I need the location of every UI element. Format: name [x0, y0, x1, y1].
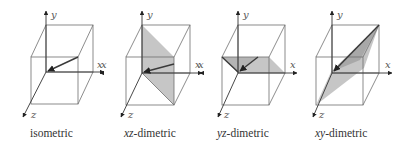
- caption-yz-dimetric: yz-dimetric: [216, 127, 269, 140]
- caption-xz-dimetric: xz-dimetric: [123, 127, 176, 139]
- z-label: z: [30, 109, 37, 120]
- z-label: z: [318, 109, 325, 120]
- z-label: z: [127, 109, 134, 120]
- z-label: z: [223, 109, 230, 120]
- x-label: x: [385, 59, 391, 70]
- caption-xy-dimetric: xy-dimetric: [314, 127, 367, 140]
- x-neg-label: x: [101, 59, 107, 70]
- panel-xz-dimetric: y x x z xz-dimetric: [100, 9, 202, 139]
- y-label: y: [146, 9, 153, 20]
- view-vector: [48, 57, 78, 71]
- panel-xy-dimetric: y x z xy-dimetric: [313, 9, 392, 140]
- caption-isometric: isometric: [30, 127, 73, 139]
- panel-yz-dimetric: y x x z yz-dimetric: [198, 9, 297, 140]
- y-label: y: [336, 9, 343, 20]
- x-label: x: [290, 59, 296, 70]
- y-label: y: [50, 9, 57, 20]
- panel-isometric: y x z isometric: [23, 9, 104, 139]
- x-neg-label: x: [198, 59, 204, 70]
- projection-diagram: y x z isometric y x x z xz-dimetric: [0, 0, 418, 146]
- y-label: y: [242, 9, 249, 20]
